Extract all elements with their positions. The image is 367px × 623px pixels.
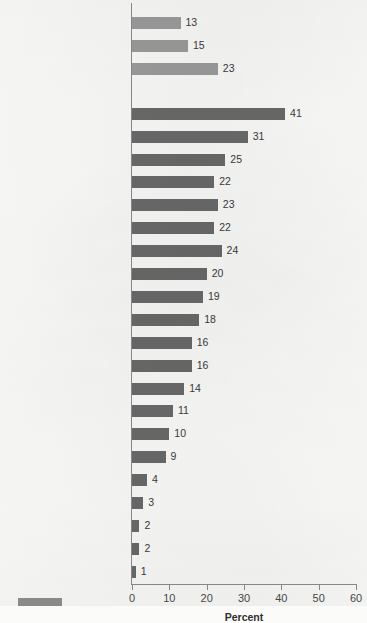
bar-offense: [132, 474, 147, 486]
bar-value-label: 4: [152, 473, 158, 486]
bar-value-label: 2: [144, 519, 150, 532]
bar-value-label: 22: [219, 175, 231, 188]
bar-offense: [132, 268, 207, 280]
x-axis-tick-label: 30: [232, 592, 256, 604]
bar-value-label: 22: [219, 221, 231, 234]
bar-value-label: 15: [193, 39, 205, 52]
x-axis-tick-label: 10: [157, 592, 181, 604]
bar-value-label: 18: [204, 313, 216, 326]
bar-value-label: 23: [223, 62, 235, 75]
bar-offense: [132, 405, 173, 417]
bar-value-label: 19: [208, 290, 220, 303]
bar-summary: [132, 17, 181, 29]
bar-offense: [132, 108, 285, 120]
bar-value-label: 25: [230, 153, 242, 166]
x-axis-tick: [356, 585, 357, 590]
bar-value-label: 31: [253, 130, 265, 143]
bar-value-label: 3: [148, 496, 154, 509]
bar-offense: [132, 291, 203, 303]
bar-value-label: 10: [174, 427, 186, 440]
x-axis-tick: [319, 585, 320, 590]
x-axis-tick-label: 20: [195, 592, 219, 604]
bar-offense: [132, 199, 218, 211]
legend-swatch: [18, 598, 62, 606]
bar-offense: [132, 451, 166, 463]
bar-offense: [132, 314, 199, 326]
bar-offense: [132, 222, 214, 234]
bar-offense: [132, 245, 222, 257]
bar-value-label: 1: [141, 565, 147, 578]
x-axis-tick-label: 0: [120, 592, 144, 604]
bar-value-label: 2: [144, 542, 150, 555]
bar-offense: [132, 383, 184, 395]
bar-offense: [132, 520, 139, 532]
bar-offense: [132, 497, 143, 509]
bar-offense: [132, 428, 169, 440]
bar-value-label: 14: [189, 382, 201, 395]
bar-summary: [132, 40, 188, 52]
bar-offense: [132, 360, 192, 372]
bar-value-label: 16: [197, 336, 209, 349]
x-axis-tick: [207, 585, 208, 590]
x-axis-title: Percent: [102, 611, 367, 623]
x-axis-tick-label: 50: [307, 592, 331, 604]
x-axis-tick-label: 60: [344, 592, 367, 604]
bar-offense: [132, 154, 225, 166]
bar-value-label: 16: [197, 359, 209, 372]
bar-offense: [132, 337, 192, 349]
bar-summary: [132, 63, 218, 75]
x-axis-tick: [244, 585, 245, 590]
bar-offense: [132, 543, 139, 555]
bar-value-label: 20: [212, 267, 224, 280]
x-axis-tick: [281, 585, 282, 590]
bar-value-label: 9: [171, 450, 177, 463]
bar-value-label: 24: [227, 244, 239, 257]
x-axis-tick: [169, 585, 170, 590]
bar-offense: [132, 131, 248, 143]
bar-offense: [132, 176, 214, 188]
bar-value-label: 23: [223, 198, 235, 211]
bar-offense: [132, 566, 136, 578]
bar-value-label: 41: [290, 107, 302, 120]
bar-value-label: 11: [178, 404, 189, 417]
bar-value-label: 13: [186, 16, 198, 29]
chart-legend: [18, 598, 68, 606]
x-axis-tick-label: 40: [269, 592, 293, 604]
y-axis-line: [131, 3, 132, 584]
x-axis-tick: [132, 585, 133, 590]
